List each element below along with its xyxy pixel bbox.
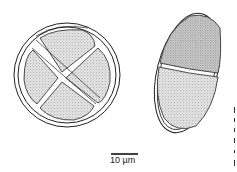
spore-illustration: [0, 0, 237, 172]
tetrad-spore: [14, 23, 120, 127]
margin-marks: [234, 107, 235, 166]
scale-bar-label: 10 µm: [110, 155, 135, 165]
two-celled-spore: [143, 7, 231, 140]
